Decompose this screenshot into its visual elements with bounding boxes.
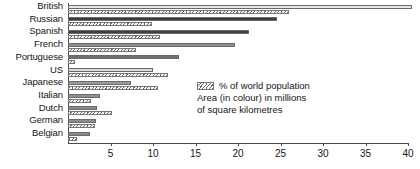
category-label-dutch: Dutch: [39, 102, 63, 113]
category-label-french: French: [34, 38, 63, 49]
x-tick-label-30: 30: [317, 148, 328, 159]
legend-entry-population: % of world population: [197, 80, 377, 91]
category-label-russian: Russian: [29, 13, 63, 24]
x-tick-20: [238, 143, 239, 146]
legend-label-area-line1: Area (in colour) in millions: [197, 92, 377, 104]
hatched-swatch-icon: [197, 82, 214, 90]
x-tick-5: [111, 143, 112, 146]
category-label-us: US: [50, 64, 63, 75]
bar-area-belgian: [68, 132, 90, 136]
x-tick-40: [408, 143, 409, 146]
legend-label-area-line2: of square kilometres: [197, 104, 377, 116]
x-tick-25: [281, 143, 282, 146]
category-label-spanish: Spanish: [29, 25, 63, 36]
bar-area-german: [68, 119, 96, 123]
x-tick-label-10: 10: [147, 148, 158, 159]
bar-population-us: [68, 73, 168, 77]
bar-area-french: [68, 43, 235, 47]
bar-population-spanish: [68, 35, 160, 39]
x-tick-label-15: 15: [190, 148, 201, 159]
x-tick-10: [153, 143, 154, 146]
bar-population-british: [68, 10, 289, 14]
plot-area: 510152025303540: [68, 3, 408, 143]
bar-area-spanish: [68, 30, 249, 34]
category-label-portuguese: Portuguese: [15, 51, 63, 62]
legend-label-population: % of world population: [219, 80, 310, 91]
x-tick-35: [366, 143, 367, 146]
bar-area-russian: [68, 17, 277, 21]
bar-population-german: [68, 124, 95, 128]
x-tick-30: [323, 143, 324, 146]
bar-population-french: [68, 48, 136, 52]
chart-legend: % of world population Area (in colour) i…: [197, 80, 377, 115]
empire-comparison-bar-chart: BritishRussianSpanishFrenchPortugueseUSJ…: [0, 0, 420, 169]
x-tick-15: [196, 143, 197, 146]
bar-population-italian: [68, 99, 91, 103]
bar-population-portuguese: [68, 60, 75, 64]
category-axis-labels: BritishRussianSpanishFrenchPortugueseUSJ…: [0, 0, 66, 140]
x-tick-label-5: 5: [108, 148, 114, 159]
category-label-japanese: Japanese: [23, 76, 63, 87]
category-label-italian: Italian: [38, 89, 63, 100]
bar-population-belgian: [68, 137, 77, 141]
category-label-belgian: Belgian: [32, 127, 63, 138]
bar-area-italian: [68, 94, 100, 98]
bar-area-japanese: [68, 81, 131, 85]
bar-area-portuguese: [68, 55, 179, 59]
x-tick-label-35: 35: [360, 148, 371, 159]
bar-population-dutch: [68, 111, 112, 115]
x-tick-label-25: 25: [275, 148, 286, 159]
bar-population-japanese: [68, 86, 158, 90]
category-label-german: German: [29, 114, 63, 125]
bar-area-british: [68, 5, 412, 9]
x-tick-label-40: 40: [402, 148, 413, 159]
category-label-british: British: [37, 0, 63, 11]
x-tick-label-20: 20: [232, 148, 243, 159]
bar-population-russian: [68, 22, 152, 26]
bar-area-us: [68, 68, 153, 72]
bar-area-dutch: [68, 106, 97, 110]
